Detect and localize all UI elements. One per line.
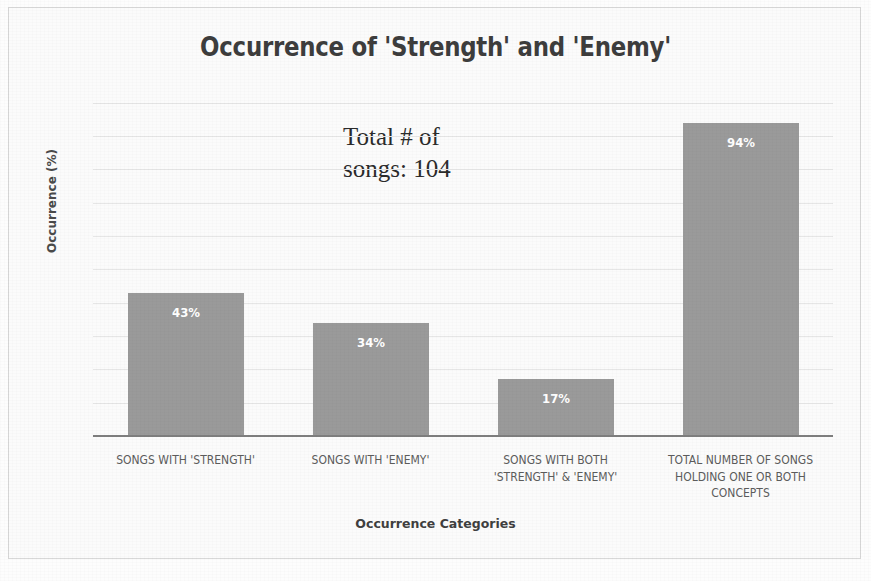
category-label-line: SONGS WITH 'ENEMY' [284, 452, 458, 469]
bar-songs-with-enemy[interactable]: 34% [313, 323, 429, 436]
category-label-2: SONGS WITH BOTH'STRENGTH' & 'ENEMY' [469, 452, 643, 485]
category-label-line: SONGS WITH 'STRENGTH' [99, 452, 273, 469]
category-label-1: SONGS WITH 'ENEMY' [284, 452, 458, 469]
bar-songs-with-both[interactable]: 17% [498, 379, 614, 436]
x-axis-line [93, 435, 833, 437]
bar-total-songs[interactable]: 94% [683, 123, 799, 436]
y-axis-title: Occurrence (%) [45, 126, 59, 276]
category-label-3: TOTAL NUMBER OF SONGSHOLDING ONE OR BOTH… [654, 452, 828, 502]
category-label-line: 'STRENGTH' & 'ENEMY' [469, 469, 643, 486]
bar-value-label: 34% [318, 335, 422, 350]
chart-frame: Occurrence of 'Strength' and 'Enemy' Occ… [8, 7, 861, 559]
bar-songs-with-strength[interactable]: 43% [128, 293, 244, 436]
x-axis-title: Occurrence Categories [9, 516, 862, 531]
category-label-line: TOTAL NUMBER OF SONGS [654, 452, 828, 469]
bar-slot: 94% [648, 103, 833, 436]
bar-slot: 34% [278, 103, 463, 436]
category-label-0: SONGS WITH 'STRENGTH' [99, 452, 273, 469]
bar-value-label: 43% [133, 305, 237, 320]
bar-slot: 43% [93, 103, 278, 436]
x-axis-category-labels: SONGS WITH 'STRENGTH' SONGS WITH 'ENEMY'… [93, 452, 833, 514]
plot-area: 43% 34% 17% 94% [93, 103, 833, 436]
category-label-line: HOLDING ONE OR BOTH [654, 469, 828, 486]
bar-value-label: 94% [688, 135, 792, 150]
chart-title: Occurrence of 'Strength' and 'Enemy' [60, 32, 811, 62]
bar-value-label: 17% [503, 391, 607, 406]
scanned-page: Occurrence of 'Strength' and 'Enemy' Occ… [0, 0, 871, 581]
category-label-line: CONCEPTS [654, 485, 828, 502]
bar-slot: 17% [463, 103, 648, 436]
category-label-line: SONGS WITH BOTH [469, 452, 643, 469]
